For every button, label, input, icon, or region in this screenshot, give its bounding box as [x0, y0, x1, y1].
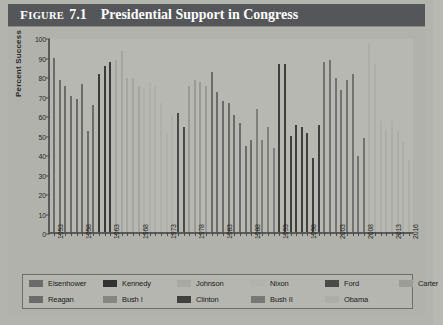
x-axis-tick-mark	[262, 232, 263, 236]
bar	[211, 72, 213, 232]
x-axis-tick-mark	[234, 232, 235, 236]
x-axis-tick-mark	[82, 232, 83, 236]
bar	[290, 136, 292, 232]
bar	[245, 146, 247, 232]
bar	[391, 121, 393, 232]
bar	[295, 125, 297, 232]
bar	[261, 140, 263, 232]
x-axis-tick-mark	[206, 232, 207, 236]
x-axis-tick-mark	[178, 232, 179, 236]
bar	[143, 88, 145, 232]
legend-item: Bush II	[251, 295, 325, 304]
chart-legend: EisenhowerKennedyJohnsonNixonFordCarterR…	[22, 274, 413, 309]
legend-label: Eisenhower	[48, 279, 86, 288]
bar	[340, 90, 342, 232]
x-axis-tick-mark	[364, 232, 365, 236]
bar	[138, 86, 140, 232]
x-axis-tick-mark	[240, 232, 241, 236]
x-axis-tick-mark	[398, 232, 399, 236]
x-axis-tick-mark	[386, 232, 387, 236]
x-axis-tick-mark	[122, 232, 123, 236]
bar	[76, 99, 78, 232]
legend-label: Johnson	[196, 279, 224, 288]
bar	[188, 86, 190, 232]
x-axis-tick-mark	[375, 232, 376, 236]
legend-label: Reagan	[48, 295, 74, 304]
legend-swatch	[29, 296, 43, 303]
bar	[81, 84, 83, 232]
bar	[70, 96, 72, 233]
x-axis-tick-mark	[369, 232, 370, 236]
legend-label: Obama	[344, 295, 368, 304]
bar	[363, 138, 365, 232]
bar	[64, 86, 66, 232]
y-axis-tick-label: 70	[22, 94, 46, 101]
legend-swatch	[177, 280, 191, 287]
x-axis-tick-mark	[184, 232, 185, 236]
bar	[380, 121, 382, 232]
x-axis-tick-mark	[285, 232, 286, 236]
bar	[121, 51, 123, 232]
legend-item: Kennedy	[103, 279, 177, 288]
bar	[397, 131, 399, 232]
x-axis-tick-mark	[324, 232, 325, 236]
x-axis-tick-mark	[246, 232, 247, 236]
bar	[183, 127, 185, 232]
x-axis-tick-mark	[268, 232, 269, 236]
figure-title-bar: FIGURE 7.1 Presidential Support in Congr…	[8, 4, 425, 26]
bar	[149, 82, 151, 232]
bar	[132, 78, 134, 232]
bar	[87, 131, 89, 232]
x-axis-tick-mark	[341, 232, 342, 236]
x-axis-tick-mark	[88, 232, 89, 236]
legend-swatch	[103, 280, 117, 287]
x-axis-tick-mark	[296, 232, 297, 236]
x-axis-tick-mark	[330, 232, 331, 236]
bar	[267, 127, 269, 232]
bar	[323, 62, 325, 232]
y-axis-tick-mark	[46, 156, 50, 157]
x-axis-tick-mark	[127, 232, 128, 236]
y-axis-tick-mark	[46, 39, 50, 40]
y-axis-tick-label: 20	[22, 192, 46, 199]
y-axis-tick-label: 80	[22, 75, 46, 82]
y-axis-tick-mark	[46, 97, 50, 98]
bar	[177, 113, 179, 232]
legend-item: Eisenhower	[29, 279, 103, 288]
x-axis-tick-mark	[347, 232, 348, 236]
legend-label: Bush II	[270, 295, 293, 304]
legend-swatch	[177, 296, 191, 303]
x-axis-tick-mark	[54, 232, 55, 236]
bar	[160, 103, 162, 232]
bar	[154, 86, 156, 232]
legend-item: Ford	[325, 279, 399, 288]
legend-item: Clinton	[177, 295, 251, 304]
x-axis-tick-mark	[144, 232, 145, 236]
y-axis-tick-label: 10	[22, 211, 46, 218]
x-axis-tick-mark	[99, 232, 100, 236]
bar	[278, 64, 280, 232]
legend-label: Carter	[418, 279, 438, 288]
bar	[239, 123, 241, 232]
bar	[104, 66, 106, 232]
x-axis-tick-mark	[353, 232, 354, 236]
x-axis-tick-mark	[105, 232, 106, 236]
legend-swatch	[29, 280, 43, 287]
x-axis-tick-mark	[223, 232, 224, 236]
x-axis-tick-mark	[229, 232, 230, 236]
y-axis-tick-mark	[46, 214, 50, 215]
legend-label: Clinton	[196, 295, 219, 304]
bar	[256, 109, 258, 232]
bar	[408, 160, 410, 232]
legend-item: Reagan	[29, 295, 103, 304]
plot-wrapper: Percent Success 1009080706050403020100 1…	[48, 39, 413, 234]
x-axis-tick-label: 2016	[412, 224, 419, 239]
y-axis-tick-mark	[46, 136, 50, 137]
y-axis-tick-mark	[46, 117, 50, 118]
bar	[166, 133, 168, 232]
x-axis-tick-mark	[93, 232, 94, 236]
x-axis-tick-mark	[172, 232, 173, 236]
legend-item: Nixon	[251, 279, 325, 288]
y-axis-tick-label: 40	[22, 153, 46, 160]
legend-row: ReaganBush IClintonBush IIObama	[23, 292, 412, 307]
